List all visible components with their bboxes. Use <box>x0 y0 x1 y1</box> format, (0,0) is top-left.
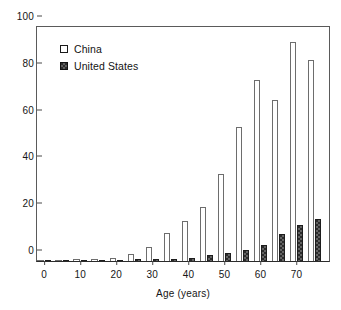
x-axis-tick-label: 0 <box>41 269 47 280</box>
x-axis-tick: 30 <box>147 261 159 280</box>
bar-united-states <box>315 219 321 261</box>
x-axis-tick-mark <box>188 261 189 265</box>
bar-united-states <box>99 260 105 261</box>
bar-china <box>164 233 170 261</box>
open-square-swatch-icon <box>60 45 68 53</box>
legend-item-united-states: United States <box>60 57 138 74</box>
bar-china <box>218 174 224 261</box>
bar-china <box>110 258 116 261</box>
bar-china <box>254 80 260 261</box>
bar-china <box>146 247 152 261</box>
x-axis-tick-label: 10 <box>74 269 86 280</box>
x-axis-tick: 50 <box>219 261 231 280</box>
y-axis-tick: 100 <box>17 11 37 22</box>
filled-square-swatch-icon <box>60 62 68 70</box>
x-axis-tick: 40 <box>183 261 195 280</box>
x-axis-tick-label: 20 <box>111 269 123 280</box>
bar-united-states <box>189 258 195 262</box>
y-axis-tick-label: 20 <box>22 198 37 209</box>
bar-united-states <box>81 260 87 261</box>
bar-china <box>182 221 188 261</box>
bar-china <box>236 127 242 261</box>
x-axis-tick-label: 40 <box>183 269 195 280</box>
x-axis-tick-label: 60 <box>255 269 267 280</box>
x-axis-tick: 60 <box>255 261 267 280</box>
x-axis-tick-label: 30 <box>147 269 159 280</box>
chart-legend: China United States <box>60 40 138 74</box>
bar-united-states <box>243 250 249 261</box>
bar-china <box>73 259 79 261</box>
bar-united-states <box>297 225 303 261</box>
x-axis-tick-mark <box>80 261 81 265</box>
bar-united-states <box>45 260 51 261</box>
y-axis-tick: 80 <box>22 57 37 68</box>
y-axis-tick-mark <box>37 16 42 17</box>
bar-china <box>308 60 314 261</box>
y-axis-tick: 60 <box>22 104 37 115</box>
bar-china <box>128 254 134 261</box>
x-axis-tick-mark <box>152 261 153 265</box>
x-axis-tick-mark <box>44 261 45 265</box>
x-axis-tick-mark <box>296 261 297 265</box>
legend-label-china: China <box>74 43 102 55</box>
y-axis-tick: 40 <box>22 151 37 162</box>
y-axis-tick-label: 60 <box>22 104 37 115</box>
x-axis-title: Age (years) <box>36 288 330 299</box>
y-axis-tick-label: 80 <box>22 57 37 68</box>
bar-united-states <box>135 259 141 261</box>
bar-united-states <box>279 234 285 261</box>
x-axis-tick: 20 <box>111 261 123 280</box>
bar-united-states <box>63 260 69 261</box>
y-axis-tick-label: 40 <box>22 151 37 162</box>
y-axis-tick: 20 <box>22 198 37 209</box>
legend-label-united-states: United States <box>74 60 138 72</box>
bar-china <box>91 259 97 261</box>
bar-china <box>55 260 61 261</box>
bar-china <box>290 42 296 261</box>
bar-united-states <box>225 253 231 261</box>
bar-chart-figure: 020406080100 010203040506070 Age (years)… <box>0 0 341 310</box>
y-axis-tick: 0 <box>28 245 37 256</box>
bar-china <box>272 100 278 261</box>
x-axis-tick-mark <box>260 261 261 265</box>
x-axis-tick: 10 <box>74 261 86 280</box>
bar-united-states <box>153 259 159 261</box>
x-axis-tick-mark <box>116 261 117 265</box>
bar-united-states <box>171 259 177 261</box>
bar-united-states <box>261 245 267 261</box>
legend-item-china: China <box>60 40 138 57</box>
y-axis-tick-label: 100 <box>17 11 37 22</box>
x-axis-tick: 0 <box>41 261 47 280</box>
y-axis-tick-label: 0 <box>28 245 37 256</box>
x-axis-tick-label: 70 <box>291 269 303 280</box>
bar-united-states <box>117 260 123 261</box>
bar-china <box>200 207 206 261</box>
x-axis-tick: 70 <box>291 261 303 280</box>
bar-united-states <box>207 255 213 261</box>
bar-china <box>37 260 43 261</box>
x-axis-tick-label: 50 <box>219 269 231 280</box>
x-axis-tick-mark <box>224 261 225 265</box>
